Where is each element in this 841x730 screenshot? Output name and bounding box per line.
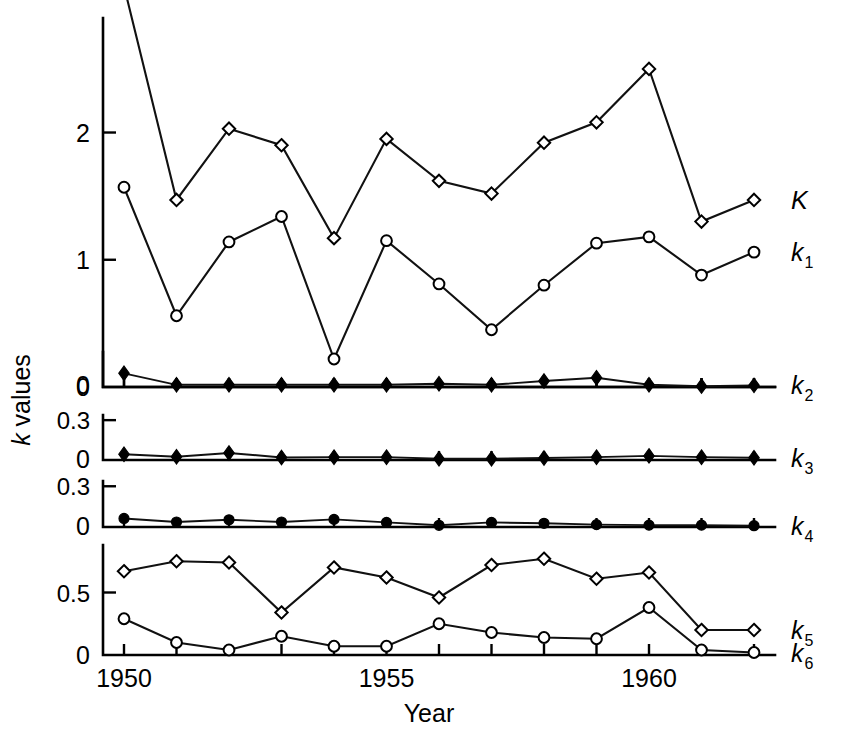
data-point-k2 bbox=[224, 378, 234, 392]
panel-top-ytick-label: 2 bbox=[76, 119, 90, 147]
x-axis-title: Year bbox=[404, 699, 455, 727]
data-point-k6 bbox=[224, 645, 235, 656]
data-point-k4 bbox=[749, 521, 759, 531]
data-point-k5 bbox=[538, 553, 550, 565]
data-point-k2 bbox=[171, 378, 181, 392]
data-point-k1 bbox=[171, 310, 182, 321]
data-point-k4 bbox=[487, 517, 497, 527]
panel-k3-ytick-label: 0 bbox=[76, 445, 90, 473]
data-point-k1 bbox=[119, 182, 130, 193]
panel-top: 012Kk1 bbox=[76, 0, 813, 401]
panel-top-ytick-label: 1 bbox=[76, 246, 90, 274]
data-point-k4 bbox=[434, 520, 444, 530]
series-k6: k6 bbox=[119, 602, 814, 671]
data-point-k2 bbox=[434, 377, 444, 391]
series-label-k1: k1 bbox=[791, 238, 814, 271]
data-point-k4 bbox=[644, 520, 654, 530]
figure-root: 012Kk10k200.3k300.3k400.5k5k619501955196… bbox=[0, 0, 841, 730]
data-point-k6 bbox=[644, 602, 655, 613]
panel-top-axis bbox=[103, 18, 775, 387]
xtick-label-1955: 1955 bbox=[359, 664, 415, 692]
data-point-k5 bbox=[380, 571, 392, 583]
data-point-k4 bbox=[224, 515, 234, 525]
k-values-line-chart: 012Kk10k200.3k300.3k400.5k5k619501955196… bbox=[0, 0, 841, 730]
series-label-sub-k2: 2 bbox=[805, 387, 814, 404]
data-point-K bbox=[748, 194, 760, 206]
data-point-k4 bbox=[119, 513, 129, 523]
series-K: K bbox=[124, 0, 809, 244]
data-point-k4 bbox=[172, 517, 182, 527]
data-point-k2 bbox=[644, 378, 654, 392]
series-label-sub-k6: 6 bbox=[805, 655, 814, 672]
data-point-k4 bbox=[329, 514, 339, 524]
data-point-k3 bbox=[276, 450, 286, 464]
panel-k4-ytick-label: 0.3 bbox=[57, 473, 90, 500]
series-k2: k2 bbox=[119, 366, 814, 404]
data-point-k1 bbox=[591, 238, 602, 249]
data-point-k6 bbox=[119, 613, 130, 624]
data-point-k3 bbox=[591, 450, 601, 464]
series-label-sub-k5: 5 bbox=[805, 632, 814, 649]
y-axis-title-rest: values bbox=[7, 354, 35, 433]
data-point-K bbox=[328, 232, 340, 244]
y-axis-title: k values bbox=[7, 354, 35, 446]
data-point-k1 bbox=[749, 247, 760, 258]
data-point-k2 bbox=[696, 379, 706, 393]
data-point-k5 bbox=[170, 555, 182, 567]
series-label-k3: k3 bbox=[791, 444, 814, 477]
data-point-k2 bbox=[276, 378, 286, 392]
series-k5: k5 bbox=[118, 553, 814, 649]
data-point-k3 bbox=[696, 450, 706, 464]
data-point-k1 bbox=[329, 354, 340, 365]
series-label-k4: k4 bbox=[791, 512, 814, 545]
data-point-k6 bbox=[486, 627, 497, 638]
data-point-k6 bbox=[591, 633, 602, 644]
data-point-K bbox=[695, 215, 707, 227]
data-point-k3 bbox=[486, 452, 496, 466]
data-point-k3 bbox=[434, 452, 444, 466]
series-label-k2: k2 bbox=[791, 371, 814, 404]
series-line-K bbox=[124, 0, 754, 238]
series-label-sub-k4: 4 bbox=[805, 528, 814, 545]
data-point-k1 bbox=[644, 231, 655, 242]
data-point-k6 bbox=[276, 631, 287, 642]
data-point-k4 bbox=[277, 517, 287, 527]
xtick-label-1960: 1960 bbox=[621, 664, 677, 692]
data-point-k4 bbox=[592, 520, 602, 530]
data-point-k1 bbox=[434, 279, 445, 290]
panel-k56: 00.5k5k6 bbox=[57, 545, 814, 672]
panel-k3-ytick-label: 0.3 bbox=[57, 407, 90, 434]
data-point-k3 bbox=[171, 450, 181, 464]
data-point-k2 bbox=[749, 378, 759, 392]
data-point-k1 bbox=[381, 235, 392, 246]
data-point-k1 bbox=[696, 270, 707, 281]
data-point-k5 bbox=[433, 591, 445, 603]
data-point-k4 bbox=[382, 517, 392, 527]
data-point-k6 bbox=[434, 618, 445, 629]
data-point-k1 bbox=[276, 211, 287, 222]
data-point-k2 bbox=[591, 371, 601, 385]
data-point-k1 bbox=[486, 324, 497, 335]
panel-k56-ytick-label: 0 bbox=[76, 641, 90, 669]
series-label-K: K bbox=[791, 186, 809, 214]
panel-k4-ytick-label: 0 bbox=[76, 512, 90, 540]
data-point-k3 bbox=[749, 450, 759, 464]
data-point-k6 bbox=[329, 641, 340, 652]
data-point-k6 bbox=[539, 632, 550, 643]
data-point-k2 bbox=[329, 378, 339, 392]
data-point-k4 bbox=[539, 518, 549, 528]
data-point-k2 bbox=[486, 378, 496, 392]
data-point-k3 bbox=[224, 446, 234, 460]
data-point-k6 bbox=[171, 637, 182, 648]
panel-k2-ytick-label: 0 bbox=[76, 371, 90, 399]
data-point-k1 bbox=[539, 280, 550, 291]
y-axis-title-text: k values bbox=[7, 354, 35, 446]
data-point-k5 bbox=[485, 559, 497, 571]
data-point-k3 bbox=[381, 450, 391, 464]
data-point-k3 bbox=[329, 450, 339, 464]
series-line-k1 bbox=[124, 187, 754, 359]
data-point-k4 bbox=[697, 520, 707, 530]
series-label-sub-k1: 1 bbox=[805, 254, 814, 271]
series-label-sub-k3: 3 bbox=[805, 460, 814, 477]
data-point-k6 bbox=[381, 641, 392, 652]
